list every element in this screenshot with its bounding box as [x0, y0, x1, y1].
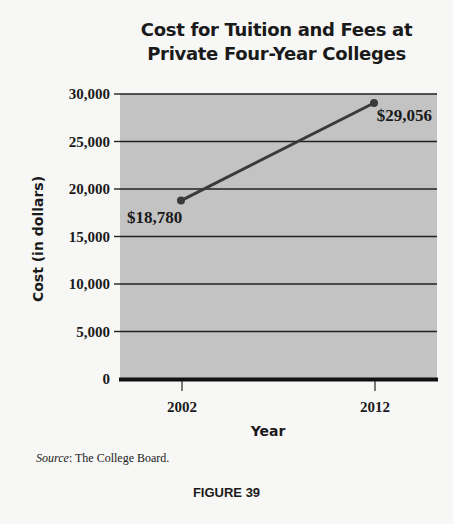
figure-label: FIGURE 39: [0, 485, 453, 500]
y-tick-label: 15,000: [69, 229, 110, 245]
source-note: Source: The College Board.: [36, 451, 169, 466]
data-label: $18,780: [127, 208, 182, 227]
y-tick-label: 25,000: [69, 134, 110, 150]
y-axis-title: Cost (in dollars): [30, 176, 46, 302]
line-chart: 05,00010,00015,00020,00025,00030,000 200…: [0, 0, 453, 524]
y-tick-label: 5,000: [76, 324, 110, 340]
y-tick-label: 10,000: [69, 276, 110, 292]
y-tick-label: 0: [103, 371, 111, 387]
x-tick-label: 2002: [167, 399, 197, 415]
y-tick-label: 30,000: [69, 86, 110, 102]
y-axis-ticks: 05,00010,00015,00020,00025,00030,000: [69, 86, 120, 387]
x-axis-ticks: 20022012: [167, 381, 390, 415]
source-label: Source: [36, 451, 69, 465]
y-tick-label: 20,000: [69, 181, 110, 197]
data-point: [177, 197, 185, 205]
x-tick-label: 2012: [360, 399, 390, 415]
source-text: : The College Board.: [69, 451, 169, 465]
data-label: $29,056: [377, 106, 432, 125]
x-axis-title: Year: [251, 423, 286, 439]
